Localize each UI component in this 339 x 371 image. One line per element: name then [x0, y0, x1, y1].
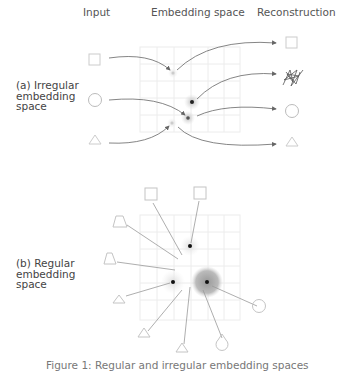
- input-square-icon: [145, 188, 157, 200]
- input-circle-icon: [89, 94, 102, 107]
- input-trapezoid-icon: [104, 253, 116, 264]
- input-circle-icon: [253, 300, 266, 313]
- embedding-point: [188, 244, 192, 248]
- input-triangle-icon: [138, 328, 150, 337]
- embedding-point: [190, 100, 194, 104]
- reconstruction-triangle-icon: [286, 137, 298, 146]
- input-triangle-icon: [113, 295, 125, 303]
- reconstruction-circle-icon: [286, 105, 299, 118]
- reconstruction-scribble-icon: [283, 70, 303, 86]
- embedding-point: [186, 116, 190, 120]
- input-square-icon: [194, 187, 206, 199]
- input-trapezoid-icon: [113, 216, 127, 227]
- mapping-lines: [117, 201, 257, 344]
- reconstruction-square-icon: [286, 37, 297, 48]
- input-circle-icon: [216, 334, 228, 350]
- embedding-point: [205, 280, 209, 284]
- embedding-point: [172, 72, 175, 75]
- input-triangle-icon: [176, 343, 188, 352]
- input-triangle-icon: [89, 135, 101, 144]
- input-square-icon: [89, 54, 100, 65]
- embedding-point: [171, 280, 175, 284]
- decode-arrows: [177, 42, 276, 145]
- embedding-point: [171, 122, 174, 125]
- panel-b-inputs: [104, 187, 266, 352]
- figure-caption: Figure 1: Regular and irregular embeddin…: [46, 359, 309, 371]
